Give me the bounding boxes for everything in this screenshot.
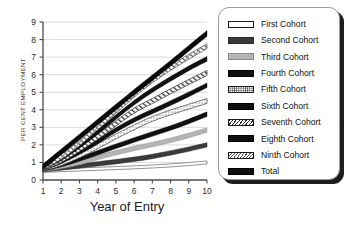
x-tick-label: 9: [182, 186, 196, 196]
y-tick-label: 1: [24, 157, 36, 167]
legend-swatch-icon: [228, 21, 254, 28]
legend-label: First Cohort: [261, 20, 306, 29]
series-lines: [43, 31, 207, 173]
legend-item[interactable]: First Cohort: [219, 16, 339, 32]
legend-swatch-icon: [228, 135, 254, 142]
x-tick-label: 4: [91, 186, 105, 196]
y-tick-label: 6: [24, 70, 36, 80]
legend-label: Seventh Cohort: [261, 118, 321, 127]
y-tick-label: 9: [24, 17, 36, 27]
x-tick-label: 8: [164, 186, 178, 196]
x-tick-label: 7: [145, 186, 159, 196]
y-tick-label: 0: [24, 175, 36, 185]
legend-swatch-icon: [228, 168, 254, 175]
legend-label: Third Cohort: [261, 53, 309, 62]
x-tick-label: 6: [127, 186, 141, 196]
y-tick-label: 5: [24, 87, 36, 97]
legend-item[interactable]: Fourth Cohort: [219, 65, 339, 81]
legend-item[interactable]: Fifth Cohort: [219, 82, 339, 98]
legend-label: Ninth Cohort: [261, 151, 309, 160]
legend-swatch-icon: [228, 37, 254, 44]
x-tick-label: 5: [109, 186, 123, 196]
legend-item[interactable]: Total: [219, 164, 339, 180]
y-tick-label: 4: [24, 105, 36, 115]
legend-swatch-icon: [228, 152, 254, 159]
legend-label: Sixth Cohort: [261, 102, 308, 111]
legend-swatch-icon: [228, 103, 254, 110]
legend-swatch-icon: [228, 53, 254, 60]
legend-label: Second Cohort: [261, 36, 318, 45]
legend-label: Fifth Cohort: [261, 85, 306, 94]
chart-legend: First CohortSecond CohortThird CohortFou…: [218, 7, 340, 180]
x-tick-label: 10: [200, 186, 214, 196]
y-tick-label: 2: [24, 140, 36, 150]
legend-label: Eighth Cohort: [261, 135, 314, 144]
legend-item[interactable]: Third Cohort: [219, 49, 339, 65]
chart-screenshot: PER CENT EMPLOYMENT Year of Entry 012345…: [0, 0, 348, 227]
legend-item[interactable]: Second Cohort: [219, 32, 339, 48]
legend-item[interactable]: Eighth Cohort: [219, 131, 339, 147]
legend-item[interactable]: Seventh Cohort: [219, 114, 339, 130]
x-tick-label: 3: [72, 186, 86, 196]
line-chart-figure: PER CENT EMPLOYMENT Year of Entry 012345…: [0, 0, 214, 227]
y-tick-label: 8: [24, 35, 36, 45]
legend-label: Fourth Cohort: [261, 69, 314, 78]
legend-item[interactable]: Sixth Cohort: [219, 98, 339, 114]
x-axis-label: Year of Entry: [43, 199, 211, 214]
legend-swatch-icon: [228, 70, 254, 77]
legend-item[interactable]: Ninth Cohort: [219, 147, 339, 163]
x-tick-label: 2: [54, 186, 68, 196]
legend-label: Total: [261, 167, 279, 176]
legend-swatch-icon: [228, 86, 254, 93]
legend-swatch-icon: [228, 119, 254, 126]
x-tick-label: 1: [36, 186, 50, 196]
y-tick-label: 3: [24, 122, 36, 132]
y-tick-label: 7: [24, 52, 36, 62]
